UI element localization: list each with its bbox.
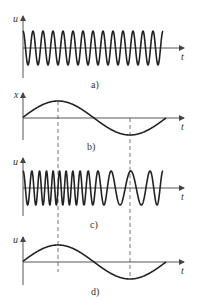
panel-d-label: d) [91,286,99,298]
panel-c-fm-wave: u t c) [13,156,184,231]
fm-modulation-diagram: u t a) x t b) u t c) u t d) [0,0,198,307]
panel-b-y-label: x [13,89,19,100]
panel-d-demodulated: u t d) [13,234,184,298]
panel-c-y-label: u [13,156,18,167]
panel-b-label: b) [87,141,95,153]
panel-c-label: c) [90,219,98,231]
panel-d-x-label: t [181,265,184,276]
panel-a-label: a) [91,79,99,91]
panel-b-modulating: x t b) [13,89,184,153]
panel-d-y-label: u [13,234,18,245]
panel-c-x-label: t [181,191,184,202]
dashed-guides [58,101,130,278]
panel-a-carrier: u t a) [13,13,184,91]
panel-b-x-label: t [181,121,184,132]
panel-a-x-label: t [181,51,184,62]
panel-a-y-label: u [13,13,18,24]
